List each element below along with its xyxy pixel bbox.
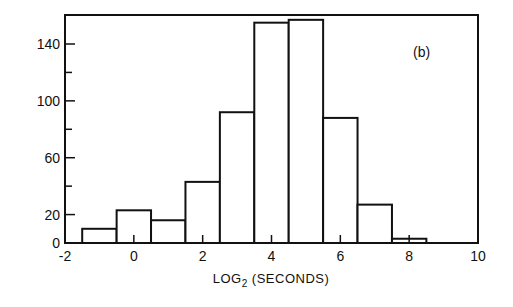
- x-tick-label: 8: [405, 248, 413, 264]
- x-tick-label: 10: [470, 248, 486, 264]
- y-tick-label: 100: [37, 93, 61, 109]
- histogram-bar: [358, 205, 392, 243]
- y-tick-label: 60: [44, 150, 60, 166]
- x-axis-title-rest: (SECONDS): [248, 271, 330, 286]
- histogram-bar: [151, 220, 185, 243]
- y-tick-label: 0: [52, 235, 60, 251]
- y-tick-label: 20: [44, 207, 60, 223]
- histogram-bar: [220, 112, 254, 243]
- histogram-bar: [254, 23, 288, 243]
- x-tick-label: 4: [268, 248, 276, 264]
- x-tick-label: 0: [130, 248, 138, 264]
- panel-label: (b): [413, 44, 430, 60]
- histogram-bar: [323, 118, 357, 243]
- y-axis-ticks: 02060100140: [37, 36, 75, 251]
- x-axis-title-main: LOG: [213, 271, 242, 286]
- x-tick-label: 2: [199, 248, 207, 264]
- histogram-bar: [82, 229, 116, 243]
- histogram-bar: [289, 20, 323, 243]
- histogram-bars: [82, 20, 426, 243]
- x-axis-title: LOG2 (SECONDS): [213, 271, 330, 289]
- x-tick-label: 6: [336, 248, 344, 264]
- histogram-bar: [185, 182, 219, 243]
- histogram-chart: -20246810 02060100140 (b) LOG2 (SECONDS): [0, 0, 513, 307]
- x-tick-label: -2: [59, 248, 72, 264]
- y-tick-label: 140: [37, 36, 61, 52]
